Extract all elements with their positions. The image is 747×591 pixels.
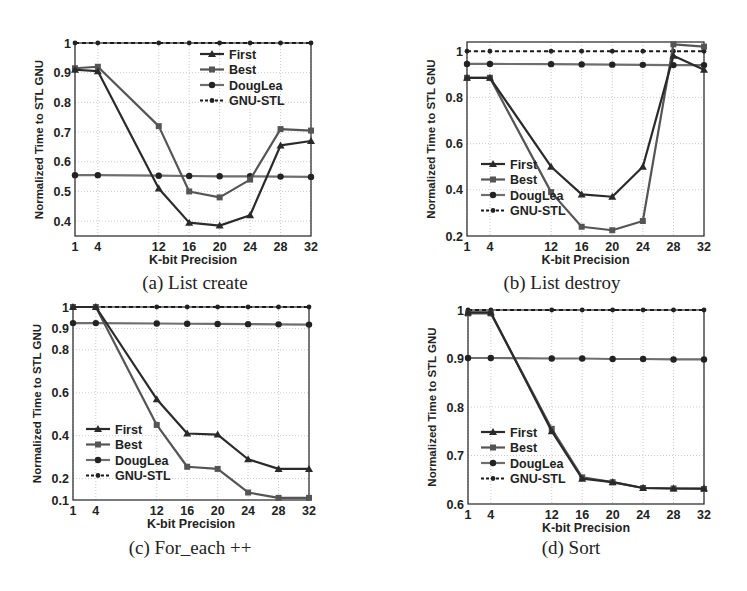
- y-tick-label: 1: [456, 45, 463, 59]
- chart-panel-list-create: 141216202428320.40.50.60.70.80.91K-bit P…: [0, 0, 373, 295]
- x-tick-label: 12: [545, 508, 559, 522]
- x-tick-label: 12: [152, 240, 166, 254]
- legend-item-douglea: DougLea: [86, 454, 170, 468]
- legend-item-gnu-stl: GNU-STL: [86, 469, 171, 483]
- y-tick-label: 0.9: [52, 322, 69, 336]
- y-tick-label: 0.7: [54, 126, 71, 140]
- chart-caption: (c) For_each ++: [75, 537, 305, 559]
- x-tick-label: 1: [70, 504, 77, 518]
- x-tick-label: 16: [575, 508, 589, 522]
- y-tick-label: 0.4: [54, 215, 71, 229]
- y-tick-label: 0.8: [447, 401, 464, 415]
- x-tick-label: 28: [274, 240, 288, 254]
- x-tick-label: 4: [486, 240, 493, 254]
- svg-text:Best: Best: [115, 438, 143, 452]
- y-tick-label: 0.1: [52, 494, 69, 508]
- svg-text:First: First: [510, 426, 538, 440]
- y-tick-label: 1: [62, 301, 69, 315]
- y-tick-label: 0.4: [52, 429, 69, 443]
- y-tick-label: 0.7: [447, 449, 464, 463]
- x-tick-label: 32: [697, 240, 711, 254]
- y-tick-label: 1: [64, 37, 71, 51]
- legend-item-gnu-stl: GNU-STL: [481, 472, 566, 486]
- svg-text:Best: Best: [510, 441, 538, 455]
- series-douglea: [72, 172, 314, 180]
- x-tick-label: 20: [211, 504, 225, 518]
- y-tick-label: 0.8: [446, 91, 463, 105]
- svg-text:DougLea: DougLea: [510, 457, 565, 471]
- x-tick-label: 4: [487, 508, 494, 522]
- series-best: [465, 310, 707, 492]
- x-tick-label: 12: [150, 504, 164, 518]
- y-tick-label: 0.9: [447, 352, 464, 366]
- legend-item-first: First: [200, 48, 257, 62]
- x-tick-label: 4: [94, 240, 101, 254]
- legend-item-gnu-stl: GNU-STL: [200, 94, 285, 108]
- svg-text:Best: Best: [229, 63, 257, 77]
- grid: [73, 307, 309, 500]
- line-chart-sort: 141216202428320.60.70.80.91K-bit Precisi…: [373, 295, 747, 535]
- x-axis-label: K-bit Precision: [147, 517, 235, 531]
- axis-ticks: 141216202428320.10.20.40.60.80.91: [52, 301, 316, 519]
- svg-text:DougLea: DougLea: [510, 189, 565, 203]
- x-tick-label: 1: [465, 508, 472, 522]
- y-tick-label: 0.6: [52, 386, 69, 400]
- legend-item-first: First: [481, 426, 538, 440]
- chart-panel-sort: 141216202428320.60.70.80.91K-bit Precisi…: [373, 295, 747, 591]
- series-first: [463, 52, 708, 200]
- x-tick-label: 28: [666, 240, 680, 254]
- y-tick-label: 0.2: [52, 472, 69, 486]
- y-tick-label: 0.5: [54, 185, 71, 199]
- x-tick-label: 4: [92, 504, 99, 518]
- x-tick-label: 24: [636, 240, 650, 254]
- legend-item-douglea: DougLea: [200, 79, 284, 93]
- x-axis-label: K-bit Precision: [542, 521, 630, 535]
- legend-item-first: First: [86, 423, 143, 437]
- x-tick-label: 16: [575, 240, 589, 254]
- y-axis-label: Normalized Time to STL GNU: [33, 60, 45, 219]
- legend-item-gnu-stl: GNU-STL: [481, 204, 566, 218]
- y-axis-label: Normalized Time to STL GNU: [31, 324, 43, 483]
- line-chart-list-create: 141216202428320.40.50.60.70.80.91K-bit P…: [0, 0, 373, 270]
- legend: FirstBestDougLeaGNU-STL: [86, 423, 171, 484]
- plot-frame: [73, 307, 309, 500]
- y-tick-label: 0.6: [447, 498, 464, 512]
- x-tick-label: 20: [605, 240, 619, 254]
- x-axis-label: K-bit Precision: [541, 253, 629, 267]
- svg-text:First: First: [510, 158, 538, 172]
- plot-frame: [75, 43, 311, 236]
- y-tick-label: 1: [457, 304, 464, 318]
- svg-text:GNU-STL: GNU-STL: [115, 469, 171, 483]
- y-tick-label: 0.8: [52, 343, 69, 357]
- x-tick-label: 24: [241, 504, 255, 518]
- svg-text:First: First: [229, 48, 257, 62]
- x-tick-label: 16: [182, 240, 196, 254]
- y-axis-label: Normalized Time to STL GNU: [426, 327, 438, 486]
- legend-item-best: Best: [200, 63, 257, 77]
- chart-panel-list-destroy: 141216202428320.20.40.60.81K-bit Precisi…: [373, 0, 747, 295]
- legend-item-douglea: DougLea: [481, 457, 565, 471]
- y-tick-label: 0.4: [446, 183, 463, 197]
- x-tick-label: 12: [544, 240, 558, 254]
- y-tick-label: 0.6: [446, 137, 463, 151]
- x-tick-label: 24: [243, 240, 257, 254]
- x-tick-label: 1: [72, 240, 79, 254]
- grid: [75, 43, 311, 236]
- x-tick-label: 28: [272, 504, 286, 518]
- svg-text:GNU-STL: GNU-STL: [229, 94, 285, 108]
- line-chart-list-destroy: 141216202428320.20.40.60.81K-bit Precisi…: [373, 0, 747, 270]
- legend-item-best: Best: [481, 441, 538, 455]
- y-axis-label: Normalized Time to STL GNU: [425, 59, 437, 218]
- x-tick-label: 28: [667, 508, 681, 522]
- series-douglea: [465, 355, 707, 363]
- chart-caption: (d) Sort: [471, 537, 671, 559]
- chart-caption: (b) List destroy: [462, 272, 662, 294]
- chart-caption: (a) List create: [95, 272, 295, 294]
- x-axis-label: K-bit Precision: [149, 253, 237, 267]
- y-tick-label: 0.6: [54, 155, 71, 169]
- chart-panel-for-each: 141216202428320.10.20.40.60.80.91K-bit P…: [0, 295, 373, 591]
- svg-text:First: First: [115, 423, 143, 437]
- x-tick-label: 32: [302, 504, 316, 518]
- svg-text:DougLea: DougLea: [229, 79, 284, 93]
- x-tick-label: 32: [304, 240, 318, 254]
